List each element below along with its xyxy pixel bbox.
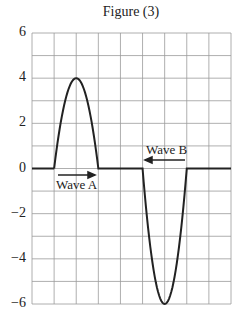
y-tick-label: −6 (0, 295, 26, 311)
y-tick-label: 4 (0, 69, 26, 85)
wave-b-label: Wave B (146, 142, 187, 158)
y-tick-label: 6 (0, 24, 26, 40)
y-tick-label: 0 (0, 160, 26, 176)
y-tick-label: −4 (0, 250, 26, 266)
plot-area (0, 0, 249, 316)
y-tick-label: 2 (0, 114, 26, 130)
y-tick-label: −2 (0, 205, 26, 221)
wave-a-label: Wave A (56, 177, 97, 193)
